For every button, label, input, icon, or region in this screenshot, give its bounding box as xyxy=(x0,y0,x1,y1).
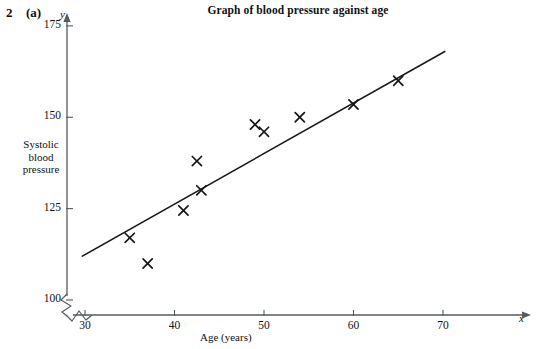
figure-container: 2 (a) Graph of blood pressure against ag… xyxy=(0,0,536,349)
y-axis-arrow xyxy=(63,13,70,22)
x-axis-arrow xyxy=(522,311,531,318)
axes-group xyxy=(61,13,531,321)
data-point-marker xyxy=(295,113,304,122)
y-tick-label: 150 xyxy=(31,109,61,121)
y-axis-break-icon xyxy=(61,294,71,316)
y-tick-label: 125 xyxy=(31,201,61,213)
x-tick-label: 50 xyxy=(249,319,279,331)
ticks-group xyxy=(66,26,443,316)
y-tick-label: 175 xyxy=(31,18,61,30)
data-points-group xyxy=(125,76,403,268)
y-tick-label: 100 xyxy=(31,292,61,304)
trend-line xyxy=(82,51,444,256)
line-of-best-fit xyxy=(82,51,444,256)
data-point-marker xyxy=(143,259,152,268)
x-tick-label: 30 xyxy=(70,319,100,331)
x-tick-label: 60 xyxy=(339,319,369,331)
data-point-marker xyxy=(259,127,268,136)
x-tick-label: 40 xyxy=(160,319,190,331)
scatter-plot xyxy=(0,0,536,349)
data-point-marker xyxy=(125,233,134,242)
x-tick-label: 70 xyxy=(428,319,458,331)
data-point-marker xyxy=(250,120,259,129)
data-point-marker xyxy=(179,206,188,215)
data-point-marker xyxy=(192,157,201,166)
